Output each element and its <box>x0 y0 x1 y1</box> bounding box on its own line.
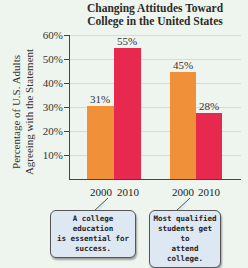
callout-line: success. <box>53 244 133 254</box>
callout-line: attend college. <box>152 244 218 264</box>
callout-qualified: Most qualified students get to attend co… <box>149 210 221 268</box>
callout-line: Most qualified <box>152 214 218 224</box>
callout-line: students get to <box>152 224 218 244</box>
callout-line: is essential for <box>53 234 133 244</box>
callout-essential: A college education is essential for suc… <box>50 210 136 258</box>
callout-line: A college education <box>53 214 133 234</box>
